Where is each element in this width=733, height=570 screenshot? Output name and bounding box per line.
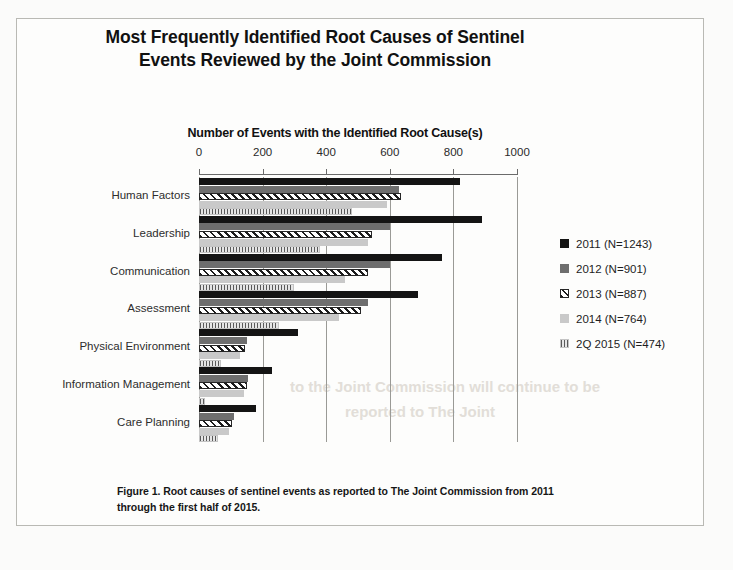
bar-2012-human-factors [199, 186, 399, 193]
chart-title: Most Frequently Identified Root Causes o… [80, 26, 550, 73]
category-label-physical-environment: Physical Environment [79, 341, 190, 353]
x-axis-line [199, 174, 517, 175]
legend-item-2013[interactable]: 2013 (N=887) [560, 283, 710, 304]
bar-group: Assessment [199, 291, 517, 329]
bar-2014-leadership [199, 239, 368, 246]
x-tick-label-0: 0 [196, 146, 202, 158]
bar-2012-physical-environment [199, 337, 247, 344]
x-tick-label-800: 800 [444, 146, 463, 158]
category-label-human-factors: Human Factors [111, 190, 190, 202]
bar-2012-communication [199, 261, 390, 268]
figure-caption: Figure 1. Root causes of sentinel events… [117, 483, 587, 516]
legend-swatch-icon-2011 [560, 239, 569, 248]
x-tick-label-600: 600 [380, 146, 399, 158]
legend-label: 2014 (N=764) [576, 313, 647, 325]
bar-2011-communication [199, 254, 442, 261]
bar-2013-care-planning [199, 420, 232, 427]
legend-swatch-icon-2q-2015 [560, 339, 569, 348]
category-label-assessment: Assessment [127, 303, 190, 315]
bar-2011-human-factors [199, 178, 460, 185]
bar-2014-information-management [199, 390, 244, 397]
bar-group: Physical Environment [199, 328, 517, 366]
chart-legend: 2011 (N=1243)2012 (N=901)2013 (N=887)201… [560, 233, 710, 358]
bar-2011-information-management [199, 367, 272, 374]
plot-area: Human FactorsLeadershipCommunicationAsse… [199, 177, 517, 442]
category-label-leadership: Leadership [133, 228, 190, 240]
bar-2011-leadership [199, 216, 482, 223]
bar-group: Human Factors [199, 177, 517, 215]
bar-2012-assessment [199, 299, 368, 306]
legend-item-2q-2015[interactable]: 2Q 2015 (N=474) [560, 333, 710, 354]
legend-item-2012[interactable]: 2012 (N=901) [560, 258, 710, 279]
legend-swatch-icon-2014 [560, 314, 569, 323]
bar-2013-human-factors [199, 193, 401, 200]
legend-label: 2011 (N=1243) [576, 238, 652, 250]
bar-2014-human-factors [199, 201, 387, 208]
legend-item-2014[interactable]: 2014 (N=764) [560, 308, 710, 329]
bar-2012-care-planning [199, 413, 234, 420]
bar-2011-assessment [199, 291, 418, 298]
bar-2012-leadership [199, 223, 390, 230]
bar-2q-2015-care-planning [199, 435, 218, 442]
bar-2013-communication [199, 269, 368, 276]
x-tick-label-200: 200 [253, 146, 272, 158]
bar-group: Leadership [199, 215, 517, 253]
bar-group: Communication [199, 253, 517, 291]
bar-2013-physical-environment [199, 345, 245, 352]
figure-page: to the Joint Commission will continue to… [0, 0, 733, 570]
bar-2013-assessment [199, 307, 361, 314]
x-tick-mark-1000 [517, 169, 518, 175]
bar-2011-physical-environment [199, 329, 298, 336]
x-tick-label-1000: 1000 [504, 146, 530, 158]
category-label-care-planning: Care Planning [117, 417, 190, 429]
bar-2014-assessment [199, 314, 339, 321]
category-label-information-management: Information Management [62, 379, 190, 391]
legend-item-2011[interactable]: 2011 (N=1243) [560, 233, 710, 254]
bar-2014-physical-environment [199, 352, 240, 359]
legend-swatch-icon-2012 [560, 264, 569, 273]
bar-2011-care-planning [199, 405, 256, 412]
x-axis-tick-labels: 02004006008001000 [199, 146, 517, 164]
legend-label: 2013 (N=887) [576, 288, 647, 300]
x-axis-title: Number of Events with the Identified Roo… [125, 126, 545, 140]
bar-group: Information Management [199, 366, 517, 404]
legend-label: 2012 (N=901) [576, 263, 647, 275]
category-label-communication: Communication [110, 266, 190, 278]
bar-2014-communication [199, 276, 345, 283]
x-tick-label-400: 400 [317, 146, 336, 158]
gridline-1000 [517, 177, 518, 442]
bar-2013-leadership [199, 231, 372, 238]
bar-2014-care-planning [199, 428, 229, 435]
legend-swatch-icon-2013 [560, 289, 569, 298]
bar-2012-information-management [199, 375, 248, 382]
bar-2013-information-management [199, 382, 247, 389]
legend-label: 2Q 2015 (N=474) [576, 338, 665, 350]
bar-group: Care Planning [199, 404, 517, 442]
